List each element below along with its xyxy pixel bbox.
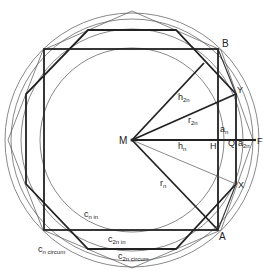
label-rn: rn [160, 178, 166, 189]
label-an: an [220, 124, 228, 135]
label-B: B [222, 38, 229, 49]
label-r2n: r2n [188, 115, 198, 126]
segment-rn [132, 140, 218, 230]
segment-h2n [132, 63, 204, 140]
label-Q: Q [228, 138, 235, 148]
label-X: X [238, 180, 244, 190]
label-h2n: h2n [178, 92, 190, 103]
label-hn: hn [178, 141, 186, 152]
point-F [254, 139, 256, 141]
label-M: M [119, 135, 127, 146]
geometry-diagram: M B A Y X H Q F h2n r2n an hn a2n rn cn … [0, 0, 267, 275]
label-Y: Y [237, 85, 243, 95]
label-c2n-in: c2n in [108, 234, 126, 245]
label-H: H [210, 141, 217, 151]
label-cn-in: cn in [84, 209, 98, 220]
label-A: A [219, 231, 226, 242]
point-M [130, 138, 133, 141]
label-c2n-circum: c2n circum [118, 251, 149, 262]
label-F: F [257, 136, 263, 146]
